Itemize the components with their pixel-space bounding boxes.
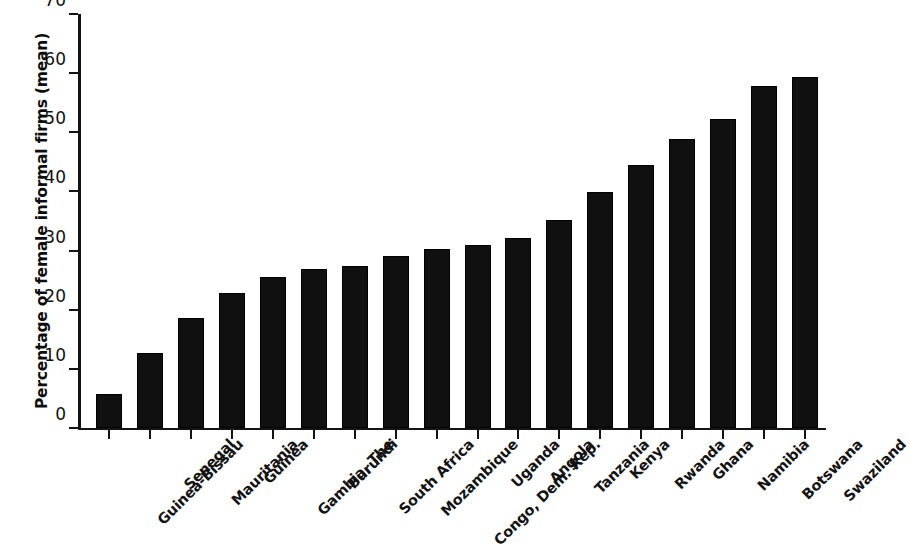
bar: [260, 277, 286, 428]
bar: [710, 119, 736, 428]
y-axis-tick: [69, 368, 78, 370]
plot-area: [78, 14, 826, 430]
bar: [219, 293, 245, 428]
y-axis-tick-label: 30: [20, 229, 66, 246]
y-axis-tick: [69, 13, 78, 15]
bar: [546, 220, 572, 428]
y-axis-tick-label: 50: [20, 110, 66, 127]
y-axis-tick: [69, 309, 78, 311]
bar: [342, 266, 368, 428]
bar: [792, 77, 818, 428]
y-axis-tick-label: 0: [20, 406, 66, 423]
y-axis-tick-label: 40: [20, 169, 66, 186]
bar: [505, 238, 531, 428]
bar: [465, 245, 491, 428]
bar: [751, 86, 777, 428]
y-axis-tick: [69, 72, 78, 74]
y-axis-tick-label: 60: [20, 51, 66, 68]
bar: [587, 192, 613, 428]
bar: [628, 165, 654, 428]
bar: [137, 353, 163, 428]
y-axis-tick: [69, 427, 78, 429]
y-axis-tick-label: 10: [20, 347, 66, 364]
bar: [424, 249, 450, 428]
bar: [669, 139, 695, 428]
bar: [178, 318, 204, 428]
x-axis-tick-label: Burundi: [344, 436, 400, 492]
bar: [96, 394, 122, 428]
bar: [383, 256, 409, 428]
y-axis-tick-label: 70: [20, 0, 66, 9]
bar: [301, 269, 327, 428]
bars-layer: [78, 14, 826, 428]
x-axis-tick-labels: Guinea-BissauSenegalMauritaniaGuineaGamb…: [78, 430, 832, 546]
y-axis-tick-label: 20: [20, 288, 66, 305]
y-axis-tick: [69, 250, 78, 252]
y-axis-tick: [69, 190, 78, 192]
y-axis-tick: [69, 131, 78, 133]
y-axis-tick-labels: 010203040506070: [14, 0, 66, 416]
x-axis-tick-label: South Africa: [396, 436, 477, 517]
